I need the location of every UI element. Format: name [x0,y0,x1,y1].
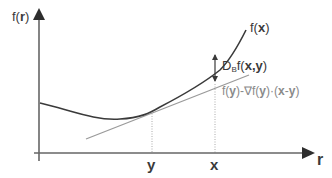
divergence-label: DBf(x,y) [222,59,267,74]
tangent-label-var: x [278,84,285,98]
divergence-label-y: y [256,58,263,73]
curve-label: f(x) [250,21,270,34]
divergence-label-d: D [222,58,231,73]
y-axis-label-prefix: f( [12,9,20,24]
y-axis-label: f(r) [12,10,29,23]
divergence-label-f: f( [237,58,245,73]
tick-label-x: x [210,157,218,172]
divergence-label-close: ) [263,58,267,73]
y-axis-label-suffix: ) [25,9,29,24]
divergence-label-x: x [245,58,252,73]
y-axis-arrow-icon [33,8,45,20]
x-axis-label: r [317,152,323,168]
bregman-divergence-diagram: f(r) r f(x) DBf(x,y) f(y)-∇f(y)·(x-y) y … [0,0,332,178]
tick-label-y: y [147,157,155,172]
curve-label-suffix: ) [265,20,269,35]
x-axis-arrow-icon [302,147,315,159]
tangent-label-part: )-∇f( [236,84,259,98]
curve-label-prefix: f( [250,20,258,35]
tangent-label-part: ) [295,84,299,98]
tangent-label: f(y)-∇f(y)·(x-y) [222,85,299,97]
tangent-label-part: )·( [266,84,278,98]
